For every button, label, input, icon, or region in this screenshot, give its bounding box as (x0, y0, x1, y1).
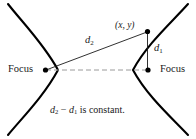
caption-text: is constant. (77, 104, 125, 115)
d1-subscript: 1 (159, 47, 162, 54)
focus-right-dot (145, 67, 150, 72)
focus-left-label: Focus (8, 64, 33, 75)
distance-d2-label: d2 (85, 35, 94, 46)
point-xy-dot (145, 29, 150, 34)
focus-left-dot (43, 67, 48, 72)
hyperbola-figure: Focus Focus (x, y) d2 d1 d2 − d1 is cons… (0, 0, 196, 139)
figure-caption: d2 − d1 is constant. (50, 105, 125, 116)
point-coordinate-label: (x, y) (115, 21, 135, 31)
focus-right-label: Focus (160, 64, 185, 75)
d2-subscript: 2 (90, 39, 93, 46)
segment-d2 (46, 32, 147, 70)
distance-d1-label: d1 (154, 43, 163, 54)
caption-minus: − (58, 104, 69, 115)
